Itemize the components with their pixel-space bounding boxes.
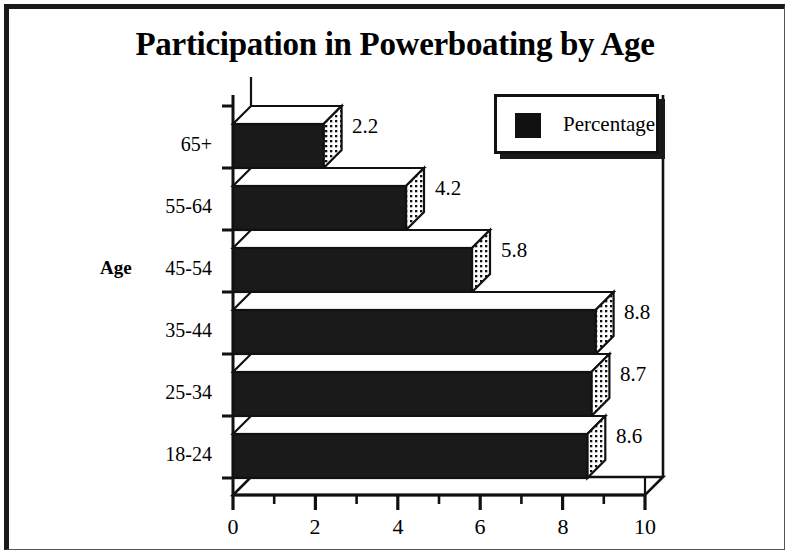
bar-3d-35-44 (233, 292, 614, 354)
x-tick-label-6: 6 (475, 516, 486, 538)
legend: Percentage (494, 94, 659, 154)
bar-front-face (233, 248, 472, 292)
bar-top-face (233, 230, 490, 248)
value-label-35-44: 8.8 (624, 302, 650, 323)
bar-3d-18-24 (233, 416, 605, 478)
legend-swatch-percentage (515, 113, 541, 138)
y-axis-ticks (222, 106, 233, 478)
bar-3d-65plus (233, 106, 342, 168)
x-tick-label-4: 4 (393, 516, 404, 538)
bar-3d-55-64 (233, 168, 424, 230)
x-tick-label-0: 0 (228, 516, 239, 538)
value-label-45-54: 5.8 (501, 240, 527, 261)
legend-label-percentage: Percentage (563, 111, 655, 137)
value-label-25-34: 8.7 (620, 364, 646, 385)
bar-top-face (233, 416, 605, 434)
bar-front-face (233, 310, 596, 354)
bar-front-face (233, 434, 587, 478)
y-tick-label-35-44: 35-44 (60, 320, 212, 340)
y-tick-label-65plus: 65+ (60, 134, 212, 154)
x-tick-label-2: 2 (310, 516, 321, 538)
x-axis (233, 495, 645, 510)
bar-front-face (233, 372, 591, 416)
value-label-55-64: 4.2 (435, 178, 461, 199)
value-label-18-24: 8.6 (616, 426, 642, 447)
bar-top-face (233, 168, 424, 186)
y-tick-label-55-64: 55-64 (60, 196, 212, 216)
plot-area (0, 0, 800, 559)
bar-top-face (233, 354, 609, 372)
bar-3d-25-34 (233, 354, 609, 416)
bar-top-face (233, 292, 614, 310)
x-tick-label-8: 8 (558, 516, 569, 538)
value-label-65plus: 2.2 (352, 116, 378, 137)
x-tick-label-10: 10 (634, 516, 656, 538)
floor-plane (233, 477, 663, 495)
y-tick-label-45-54: 45-54 (60, 258, 212, 278)
plot-svg (0, 0, 800, 559)
y-tick-label-25-34: 25-34 (60, 382, 212, 402)
bar-front-face (233, 124, 324, 168)
y-tick-label-18-24: 18-24 (60, 444, 212, 464)
chart-page: Participation in Powerboating by Age (0, 0, 800, 559)
bar-front-face (233, 186, 406, 230)
bar-3d-45-54 (233, 230, 490, 292)
